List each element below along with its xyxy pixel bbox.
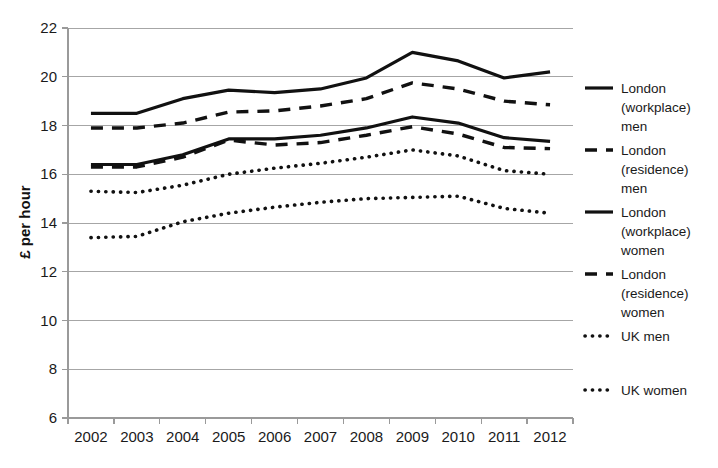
x-tick-label: 2005 <box>212 428 245 445</box>
y-tick-label: 12 <box>40 263 57 280</box>
legend-label: London <box>621 267 666 282</box>
legend-label: (residence) <box>621 162 689 177</box>
legend-label: London <box>621 143 666 158</box>
x-tick-label: 2012 <box>533 428 566 445</box>
x-tick-label: 2003 <box>120 428 153 445</box>
legend-item[interactable]: UK men <box>585 329 670 344</box>
x-tick-label: 2006 <box>258 428 291 445</box>
legend-label: (workplace) <box>621 224 691 239</box>
legend-label: UK women <box>621 383 687 398</box>
x-tick-label: 2002 <box>74 428 107 445</box>
legend-item[interactable]: London(residence)men <box>585 143 689 196</box>
y-tick-label: 22 <box>40 19 57 36</box>
legend-label: (workplace) <box>621 100 691 115</box>
y-tick-label: 18 <box>40 117 57 134</box>
x-tick-label: 2008 <box>350 428 383 445</box>
legend-item[interactable]: UK women <box>585 383 687 398</box>
series-line <box>91 127 550 167</box>
legend-item[interactable]: London(workplace)women <box>585 205 691 258</box>
legend-label: London <box>621 81 666 96</box>
y-tick-label: 10 <box>40 312 57 329</box>
y-tick-label: 14 <box>40 214 57 231</box>
x-tick-label: 2009 <box>396 428 429 445</box>
x-tick-label: 2011 <box>488 428 520 445</box>
series-line <box>91 52 550 113</box>
legend-label: women <box>620 305 665 320</box>
x-axis-labels-group: 2002200320042005200620072008200920102011… <box>68 418 573 445</box>
y-tick-label: 8 <box>49 360 57 377</box>
series-line <box>91 150 550 193</box>
legend-item[interactable]: London(residence)women <box>585 267 689 320</box>
legend-label: London <box>621 205 666 220</box>
x-tick-label: 2010 <box>442 428 475 445</box>
series-line <box>91 196 550 237</box>
series-group <box>91 52 550 237</box>
y-axis-title: £ per hour <box>16 185 33 259</box>
legend-label: (residence) <box>621 286 689 301</box>
legend-label: UK men <box>621 329 670 344</box>
x-tick-label: 2007 <box>304 428 337 445</box>
y-tick-label: 20 <box>40 68 57 85</box>
line-chart: 6810121416182022200220032004200520062007… <box>0 0 718 468</box>
gridlines-group: 6810121416182022 <box>40 19 573 426</box>
legend: London(workplace)menLondon(residence)men… <box>585 81 691 398</box>
x-tick-label: 2004 <box>166 428 199 445</box>
legend-label: women <box>620 243 665 258</box>
y-tick-label: 16 <box>40 165 57 182</box>
y-tick-label: 6 <box>49 409 57 426</box>
chart-container: 6810121416182022200220032004200520062007… <box>0 0 718 468</box>
legend-item[interactable]: London(workplace)men <box>585 81 691 134</box>
legend-label: men <box>621 181 647 196</box>
legend-label: men <box>621 119 647 134</box>
